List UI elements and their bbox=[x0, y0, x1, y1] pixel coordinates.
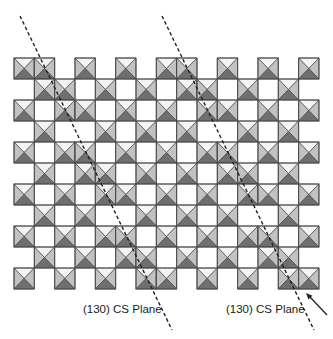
octahedron bbox=[177, 205, 197, 226]
octahedron bbox=[258, 58, 278, 79]
octahedron bbox=[217, 247, 237, 268]
octahedron bbox=[14, 268, 34, 289]
octahedron bbox=[278, 247, 298, 268]
octahedron bbox=[238, 226, 258, 247]
octahedron bbox=[258, 184, 278, 205]
octahedron bbox=[95, 268, 115, 289]
octahedron bbox=[299, 142, 319, 163]
octahedron bbox=[136, 79, 156, 100]
octahedron bbox=[14, 100, 34, 121]
octahedron bbox=[95, 163, 115, 184]
cs-plane-label-right: (130) CS Plane bbox=[226, 303, 305, 315]
octahedron bbox=[156, 226, 176, 247]
octahedron bbox=[55, 142, 75, 163]
octahedron bbox=[278, 205, 298, 226]
octahedron bbox=[156, 100, 176, 121]
octahedron bbox=[116, 100, 136, 121]
octahedron bbox=[136, 205, 156, 226]
octahedron bbox=[55, 226, 75, 247]
octahedron bbox=[34, 163, 54, 184]
octahedron bbox=[34, 121, 54, 142]
octahedron bbox=[156, 142, 176, 163]
octahedron bbox=[34, 205, 54, 226]
octahedron bbox=[217, 205, 237, 226]
octahedron bbox=[75, 58, 95, 79]
octahedron bbox=[299, 226, 319, 247]
octahedron bbox=[278, 79, 298, 100]
octahedron bbox=[177, 163, 197, 184]
octahedron bbox=[299, 268, 319, 289]
octahedron bbox=[258, 142, 278, 163]
octahedron bbox=[14, 226, 34, 247]
octahedron bbox=[95, 184, 115, 205]
octahedron bbox=[299, 100, 319, 121]
octahedron bbox=[75, 100, 95, 121]
octahedron bbox=[238, 268, 258, 289]
octahedron bbox=[156, 184, 176, 205]
octahedron bbox=[95, 121, 115, 142]
octahedron bbox=[197, 268, 217, 289]
octahedron bbox=[34, 247, 54, 268]
octahedron bbox=[75, 163, 95, 184]
octahedron bbox=[75, 142, 95, 163]
octahedron bbox=[238, 121, 258, 142]
octahedron bbox=[217, 100, 237, 121]
octahedron bbox=[14, 184, 34, 205]
octahedron bbox=[55, 79, 75, 100]
cs-plane-label-left: (130) CS Plane bbox=[83, 303, 162, 315]
octahedron bbox=[197, 79, 217, 100]
arrow-icon bbox=[306, 293, 327, 315]
octahedron bbox=[156, 268, 176, 289]
octahedron bbox=[177, 58, 197, 79]
octahedron bbox=[258, 100, 278, 121]
octahedron bbox=[75, 205, 95, 226]
octahedron bbox=[258, 226, 278, 247]
octahedron bbox=[217, 58, 237, 79]
octahedron bbox=[238, 79, 258, 100]
octahedron bbox=[278, 121, 298, 142]
octahedron bbox=[55, 184, 75, 205]
octahedron bbox=[197, 226, 217, 247]
octahedron bbox=[278, 163, 298, 184]
octahedron bbox=[14, 58, 34, 79]
octahedron bbox=[116, 142, 136, 163]
octahedron bbox=[299, 184, 319, 205]
octahedron bbox=[95, 226, 115, 247]
octahedron bbox=[116, 226, 136, 247]
octahedron bbox=[238, 163, 258, 184]
octahedron bbox=[14, 142, 34, 163]
octahedron bbox=[116, 58, 136, 79]
cs-plane-diagram bbox=[0, 0, 333, 339]
octahedron bbox=[136, 163, 156, 184]
octahedron bbox=[177, 247, 197, 268]
octahedron bbox=[156, 58, 176, 79]
octahedron bbox=[136, 121, 156, 142]
octahedron bbox=[197, 142, 217, 163]
octahedron bbox=[55, 100, 75, 121]
octahedron bbox=[34, 58, 54, 79]
octahedron bbox=[217, 163, 237, 184]
octahedron bbox=[95, 79, 115, 100]
octahedron bbox=[177, 121, 197, 142]
octahedron bbox=[116, 184, 136, 205]
octahedra-grid bbox=[14, 58, 319, 289]
octahedron bbox=[55, 268, 75, 289]
octahedron bbox=[299, 58, 319, 79]
octahedron bbox=[136, 247, 156, 268]
octahedron bbox=[197, 184, 217, 205]
octahedron bbox=[75, 247, 95, 268]
octahedron bbox=[136, 268, 156, 289]
